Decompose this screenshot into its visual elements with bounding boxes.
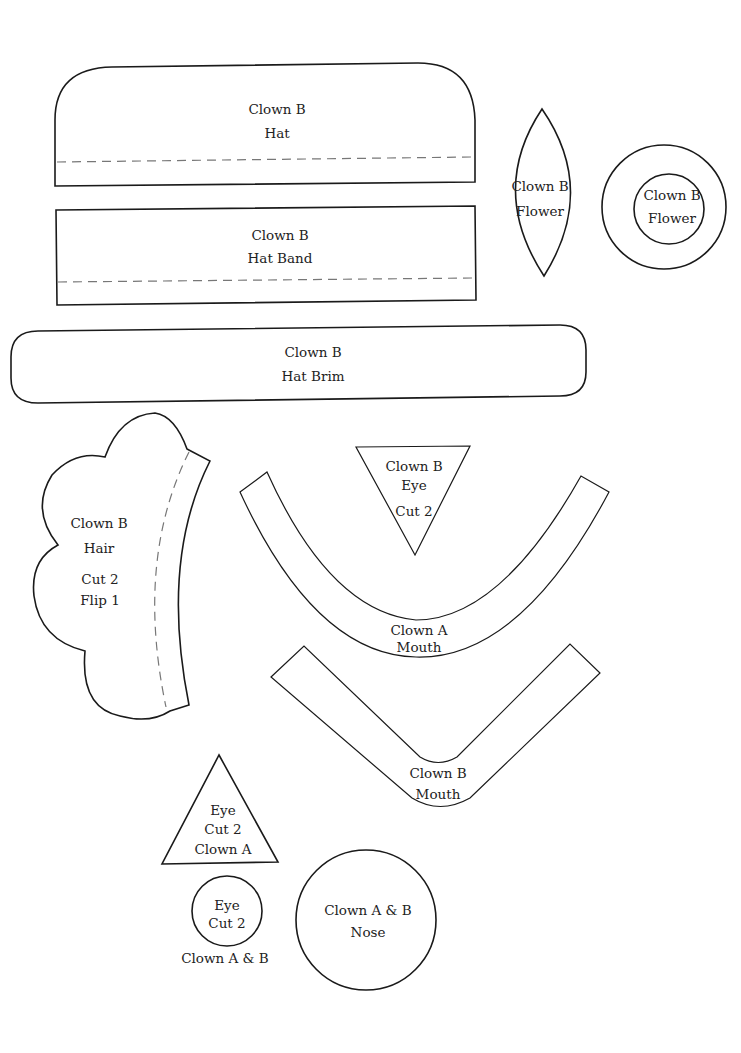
clown-b-mouth-piece: Clown B Mouth	[271, 644, 600, 807]
hat-label-line1: Clown B	[248, 101, 305, 117]
clown-a-mouth-label-line1: Clown A	[390, 622, 447, 638]
round-eye-label-line2: Cut 2	[208, 915, 245, 931]
clown-a-mouth-label-line2: Mouth	[397, 639, 442, 655]
clown-a-eye-piece: Eye Cut 2 Clown A	[162, 755, 278, 864]
flower-circle-label-line1: Clown B	[643, 187, 700, 203]
hat-brim-label-line1: Clown B	[284, 344, 341, 360]
hat-band-piece: Clown B Hat Band	[56, 206, 476, 305]
flower-petal-label-line2: Flower	[516, 203, 564, 219]
flower-petal-label-line1: Clown B	[511, 178, 568, 194]
clown-b-mouth-label-line1: Clown B	[409, 765, 466, 781]
nose-label-line2: Nose	[351, 924, 386, 940]
hat-band-label-line2: Hat Band	[248, 250, 313, 266]
hair-label-line2: Hair	[84, 540, 115, 556]
nose-piece: Clown A & B Nose	[296, 850, 436, 990]
hat-brim-label-line2: Hat Brim	[281, 368, 344, 384]
clown-b-mouth-label-line2: Mouth	[416, 786, 461, 802]
flower-circle-label-line2: Flower	[648, 210, 696, 226]
clown-a-eye-label-line2: Cut 2	[204, 821, 241, 837]
hair-label-line3: Cut 2	[81, 571, 118, 587]
clown-a-eye-label-line3: Clown A	[194, 841, 251, 857]
clown-a-eye-label-line1: Eye	[210, 802, 235, 818]
round-eye-piece: Eye Cut 2 Clown A & B	[181, 876, 269, 966]
hair-label-line4: Flip 1	[80, 592, 120, 608]
hat-brim-piece: Clown B Hat Brim	[11, 325, 586, 403]
hat-piece: Clown B Hat	[55, 63, 475, 186]
clown-b-eye-label-line3: Cut 2	[395, 503, 432, 519]
flower-circle-piece: Clown B Flower	[602, 145, 726, 269]
hair-label-line1: Clown B	[70, 515, 127, 531]
round-eye-label-line1: Eye	[214, 897, 239, 913]
hair-piece: Clown B Hair Cut 2 Flip 1	[34, 413, 211, 719]
clown-b-eye-piece: Clown B Eye Cut 2	[356, 446, 470, 555]
hat-label-line2: Hat	[264, 125, 290, 141]
nose-label-line1: Clown A & B	[324, 902, 412, 918]
hat-band-label-line1: Clown B	[251, 227, 308, 243]
clown-b-eye-label-line1: Clown B	[385, 458, 442, 474]
round-eye-caption: Clown A & B	[181, 950, 269, 966]
flower-petal-piece: Clown B Flower	[511, 109, 570, 276]
clown-b-eye-label-line2: Eye	[401, 477, 426, 493]
